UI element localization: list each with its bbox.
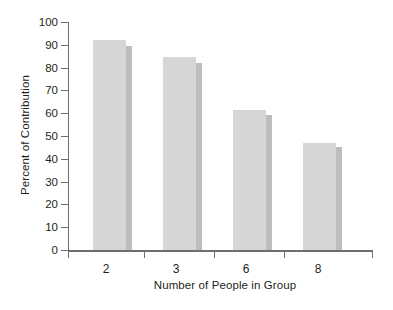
y-tick-mark — [61, 68, 68, 69]
bar-chart-figure: Percent of Contribution 100 90 80 70 60 … — [0, 0, 393, 310]
y-tick-label: 100 — [18, 17, 58, 29]
y-tick-label: 0 — [18, 245, 58, 257]
y-tick-mark — [61, 45, 68, 46]
plot-area — [68, 22, 373, 250]
y-tick-mark — [61, 22, 68, 23]
y-tick-mark — [61, 113, 68, 114]
x-tick-mark — [68, 250, 69, 258]
y-tick-label: 90 — [18, 40, 58, 52]
y-tick-label: 10 — [18, 222, 58, 234]
y-tick-label: 80 — [18, 63, 58, 75]
x-tick-label: 3 — [146, 262, 206, 276]
y-tick-mark — [61, 90, 68, 91]
y-tick-label: 20 — [18, 199, 58, 211]
y-tick-mark — [61, 250, 68, 251]
bar-front-face — [303, 143, 336, 250]
x-tick-mark — [144, 250, 145, 258]
y-tick-label: 50 — [18, 131, 58, 143]
bar-side-face — [196, 63, 202, 250]
bar-side-face — [336, 147, 342, 250]
y-tick-label: 70 — [18, 85, 58, 97]
bar-front-face — [93, 40, 126, 250]
y-tick-mark — [61, 182, 68, 183]
y-tick-mark — [61, 227, 68, 228]
x-tick-label: 8 — [288, 262, 348, 276]
y-tick-mark — [61, 159, 68, 160]
y-tick-label: 60 — [18, 108, 58, 120]
y-tick-mark — [61, 204, 68, 205]
bar-front-face — [163, 57, 196, 250]
x-tick-mark — [214, 250, 215, 258]
x-tick-label: 6 — [216, 262, 276, 276]
x-tick-mark — [284, 250, 285, 258]
y-tick-mark — [61, 136, 68, 137]
y-tick-label: 30 — [18, 177, 58, 189]
y-tick-label: 40 — [18, 154, 58, 166]
x-axis-title: Number of People in Group — [60, 279, 390, 291]
bar-side-face — [126, 46, 132, 250]
x-tick-label: 2 — [76, 262, 136, 276]
bar-side-face — [266, 115, 272, 250]
x-axis-line — [68, 250, 373, 252]
x-tick-mark — [372, 250, 373, 258]
bar-front-face — [233, 110, 266, 250]
